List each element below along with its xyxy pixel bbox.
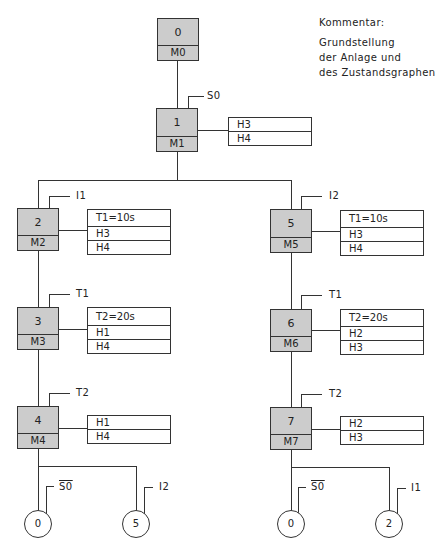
cond-tick-5 — [301, 196, 302, 209]
state-0[interactable]: 0 M0 — [157, 18, 199, 61]
edge-7-branch — [291, 450, 292, 514]
cond-tick-7 — [301, 394, 322, 395]
outputs-state-5: T1=10s H3 H4 — [340, 210, 424, 256]
branch-7-right — [389, 467, 390, 514]
condition-label: S0 — [207, 90, 221, 101]
jump-condition-label: I2 — [159, 481, 169, 492]
state-memory: M2 — [18, 235, 58, 250]
comment-title: Kommentar: — [319, 15, 436, 30]
state-number: 7 — [271, 408, 311, 436]
output-item: H4 — [341, 241, 423, 255]
edge-1-branch — [177, 152, 178, 180]
cond-tick-3 — [49, 294, 70, 295]
branch-left — [38, 180, 39, 208]
output-item: H3 — [341, 340, 423, 354]
output-link-3 — [59, 329, 87, 330]
comment-line: Grundstellung — [319, 35, 436, 50]
cond-tick-6 — [301, 295, 322, 296]
output-link-5 — [312, 231, 340, 232]
state-7[interactable]: 7 M7 — [270, 407, 312, 450]
state-4[interactable]: 4 M4 — [17, 406, 59, 449]
state-memory: M6 — [271, 336, 311, 351]
state-number: 2 — [18, 209, 58, 237]
outputs-state-3: T2=20s H1 H4 — [87, 307, 171, 354]
condition-label: T1 — [76, 288, 89, 299]
output-item: H3 — [341, 430, 423, 444]
output-item: H1 — [88, 416, 170, 429]
output-item: H4 — [88, 240, 170, 254]
jump-to-state-5[interactable]: 5 — [122, 510, 150, 538]
jump-tick-2 — [397, 488, 406, 489]
state-number: 0 — [158, 19, 198, 47]
output-link-4 — [59, 428, 87, 429]
output-item: T2=20s — [341, 310, 423, 326]
condition-label: T2 — [329, 388, 342, 399]
edge-4-branch — [38, 449, 39, 514]
condition-label: T2 — [76, 387, 89, 398]
state-number: 3 — [18, 308, 58, 336]
state-memory: M0 — [158, 45, 198, 60]
edge-3-4 — [38, 350, 39, 406]
outputs-state-1: H3 H4 — [228, 117, 312, 146]
jump-tick-0a — [46, 486, 47, 516]
edge-2-3 — [38, 251, 39, 307]
branch-4-right — [136, 466, 137, 514]
output-item: H2 — [341, 326, 423, 340]
output-link-7 — [312, 429, 340, 430]
comment-line: der Anlage und — [319, 50, 436, 65]
state-number: 4 — [18, 407, 58, 435]
output-link-2 — [59, 230, 87, 231]
state-memory: M4 — [18, 433, 58, 448]
state-3[interactable]: 3 M3 — [17, 307, 59, 350]
outputs-state-6: T2=20s H2 H3 — [340, 309, 424, 355]
outputs-state-2: T1=10s H3 H4 — [87, 209, 171, 255]
condition-label: T1 — [329, 289, 342, 300]
outputs-state-7: H2 H3 — [340, 416, 424, 445]
edge-0-1 — [177, 60, 178, 108]
output-link-6 — [312, 330, 340, 331]
state-number: 6 — [271, 310, 311, 338]
output-item: H3 — [341, 227, 423, 241]
output-item: H1 — [88, 325, 170, 339]
output-item: H3 — [229, 118, 311, 131]
jump-tick-5 — [144, 487, 153, 488]
cond-tick-5 — [301, 196, 322, 197]
output-item: H4 — [88, 339, 170, 353]
cond-tick-1 — [188, 96, 204, 97]
cond-tick-2 — [49, 196, 70, 197]
output-item: T1=10s — [341, 211, 423, 227]
state-memory: M1 — [157, 136, 197, 151]
edge-6-7 — [291, 352, 292, 407]
cond-tick-1 — [188, 96, 189, 108]
state-memory: M5 — [271, 237, 311, 252]
condition-label: I1 — [76, 190, 86, 201]
branch-right — [291, 180, 292, 209]
jump-to-state-0[interactable]: 0 — [277, 510, 305, 538]
cond-tick-4 — [49, 393, 50, 406]
condition-label: I2 — [329, 190, 339, 201]
state-memory: M3 — [18, 334, 58, 349]
state-5[interactable]: 5 M5 — [270, 209, 312, 253]
state-2[interactable]: 2 M2 — [17, 208, 59, 251]
cond-tick-3 — [49, 294, 50, 307]
cond-tick-2 — [49, 196, 50, 208]
output-item: T1=10s — [88, 210, 170, 226]
edge-5-6 — [291, 253, 292, 309]
jump-tick-0b — [298, 487, 306, 488]
state-6[interactable]: 6 M6 — [270, 309, 312, 352]
cond-tick-6 — [301, 295, 302, 309]
cond-tick-7 — [301, 394, 302, 407]
jump-condition-label: I1 — [411, 482, 421, 493]
jump-to-state-0[interactable]: 0 — [24, 510, 52, 538]
branch-4-horizontal — [38, 466, 137, 467]
output-item: T2=20s — [88, 308, 170, 325]
branch-horizontal — [38, 180, 292, 181]
state-memory: M7 — [271, 434, 311, 449]
comment-block: Kommentar: Grundstellung der Anlage und … — [319, 15, 436, 80]
state-number: 1 — [157, 109, 197, 137]
jump-to-state-2[interactable]: 2 — [375, 510, 403, 538]
state-1[interactable]: 1 M1 — [156, 108, 198, 152]
state-number: 5 — [271, 210, 311, 238]
output-item: H4 — [229, 131, 311, 145]
comment-line: des Zustandsgraphen — [319, 65, 436, 80]
